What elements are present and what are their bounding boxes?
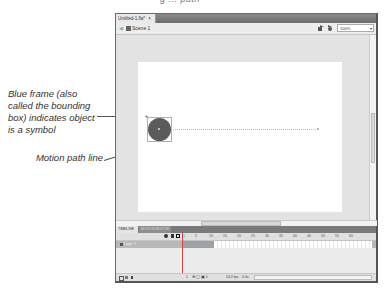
frame-number: 1 bbox=[183, 233, 185, 240]
edit-scene-icon[interactable] bbox=[318, 25, 324, 31]
transformation-point bbox=[158, 128, 160, 130]
document-tab-title: Untitled-1.fla* bbox=[118, 16, 145, 21]
onion-skin-icons[interactable]: ⊕ ▢ ▣ ⦀ bbox=[192, 274, 208, 281]
frame-number: 55 bbox=[335, 233, 339, 240]
playhead[interactable] bbox=[182, 233, 183, 273]
document-tab[interactable]: Untitled-1.fla* × bbox=[116, 14, 156, 23]
frame-rate[interactable]: 24.0 fps bbox=[226, 274, 238, 281]
new-layer-icon[interactable] bbox=[119, 276, 124, 281]
scene-icon bbox=[126, 26, 131, 31]
bounding-box-annotation: Blue frame (also called the bounding box… bbox=[8, 88, 103, 136]
pasteboard: + bbox=[116, 35, 370, 220]
back-arrow-icon[interactable]: ◀ bbox=[119, 23, 123, 34]
frame-number: 40 bbox=[293, 233, 297, 240]
frame-number: 45 bbox=[307, 233, 311, 240]
vertical-scrollbar[interactable] bbox=[369, 35, 376, 220]
tween-span[interactable] bbox=[182, 241, 214, 248]
outline-icon[interactable] bbox=[176, 234, 180, 238]
timeline-hscroll[interactable] bbox=[254, 275, 372, 280]
timeline-footer: 1 ⊕ ▢ ▣ ⦀ 24.0 fps 0.0s bbox=[116, 273, 376, 281]
frame-number: 60 bbox=[349, 233, 353, 240]
motion-path-line[interactable] bbox=[171, 129, 318, 130]
frame-number: 15 bbox=[223, 233, 227, 240]
flash-document-window: Untitled-1.fla* × ◀ Scene 1 100% ▾ + TIM… bbox=[115, 13, 378, 283]
zoom-dropdown[interactable]: 100% ▾ bbox=[337, 24, 374, 32]
motion-path-annotation: Motion path line bbox=[28, 152, 103, 164]
scene-breadcrumb[interactable]: Scene 1 bbox=[132, 23, 150, 34]
frame-number: 50 bbox=[321, 233, 325, 240]
timeline-header: 1 5 10 15 20 25 30 35 40 45 50 55 60 bbox=[116, 233, 376, 241]
eye-icon[interactable] bbox=[164, 234, 168, 238]
tab-timeline[interactable]: TIMELINE bbox=[116, 226, 138, 233]
chevron-down-icon: ▾ bbox=[370, 25, 372, 33]
frame-number: 10 bbox=[209, 233, 213, 240]
stage[interactable]: + bbox=[138, 62, 342, 212]
layer-name[interactable]: Layer 1 bbox=[124, 241, 136, 248]
frame-number: 20 bbox=[237, 233, 241, 240]
motion-path-endpoint[interactable] bbox=[317, 128, 319, 130]
frame-number: 35 bbox=[279, 233, 283, 240]
document-tab-bar: Untitled-1.fla* × bbox=[116, 14, 376, 23]
vertical-scroll-thumb[interactable] bbox=[371, 113, 375, 163]
layer-icon bbox=[120, 243, 123, 246]
lock-icon[interactable] bbox=[171, 234, 174, 238]
top-caption-fragment: g ... path bbox=[160, 0, 200, 4]
timeline-panel: 1 5 10 15 20 25 30 35 40 45 50 55 60 Lay… bbox=[116, 233, 376, 281]
elapsed-time: 0.0s bbox=[242, 274, 249, 281]
close-icon[interactable]: × bbox=[148, 16, 151, 21]
edit-symbols-icon[interactable] bbox=[327, 25, 333, 31]
current-frame: 1 bbox=[186, 274, 188, 281]
frame-number: 25 bbox=[251, 233, 255, 240]
zoom-value: 100% bbox=[340, 26, 350, 31]
tab-motion-editor[interactable]: MOTION EDITOR bbox=[139, 226, 171, 233]
edit-bar: ◀ Scene 1 100% ▾ bbox=[116, 23, 376, 35]
frame-number: 30 bbox=[265, 233, 269, 240]
frame-number: 5 bbox=[195, 233, 197, 240]
registration-point-icon: + bbox=[145, 114, 148, 119]
delete-icon[interactable] bbox=[131, 276, 133, 279]
new-folder-icon[interactable] bbox=[125, 276, 128, 279]
panel-tab-bar: TIMELINE MOTION EDITOR bbox=[116, 226, 376, 233]
